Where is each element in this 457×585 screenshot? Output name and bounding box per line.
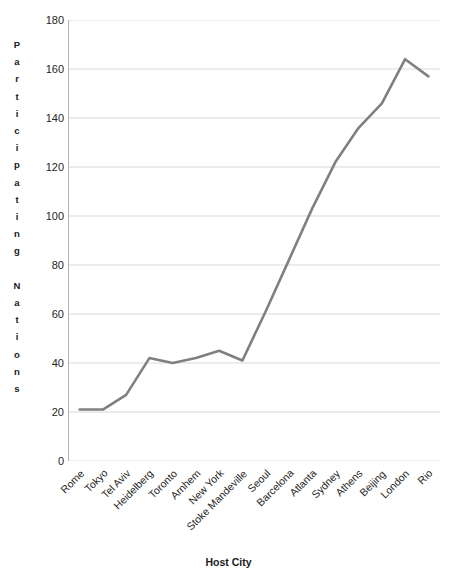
line-chart: P a r t i c i p a t i n g N a t i o n s … <box>0 0 457 585</box>
data-series-line <box>80 59 429 409</box>
y-tick-label: 0 <box>30 455 64 467</box>
y-tick-label: 180 <box>30 14 64 26</box>
y-tick-label: 40 <box>30 357 64 369</box>
y-axis-tick-labels: 020406080100120140160180 <box>26 0 64 585</box>
y-tick-label: 100 <box>30 210 64 222</box>
x-axis-title: Host City <box>0 556 457 568</box>
y-tick-label: 80 <box>30 259 64 271</box>
y-tick-label: 20 <box>30 406 64 418</box>
x-tick-label: Rio <box>415 467 435 487</box>
plot-svg <box>68 20 440 461</box>
y-axis-title: P a r t i c i p a t i n g N a t i o n s <box>6 36 28 397</box>
y-tick-label: 140 <box>30 112 64 124</box>
y-tick-label: 60 <box>30 308 64 320</box>
plot-area <box>68 20 440 461</box>
y-tick-label: 160 <box>30 63 64 75</box>
y-tick-label: 120 <box>30 161 64 173</box>
